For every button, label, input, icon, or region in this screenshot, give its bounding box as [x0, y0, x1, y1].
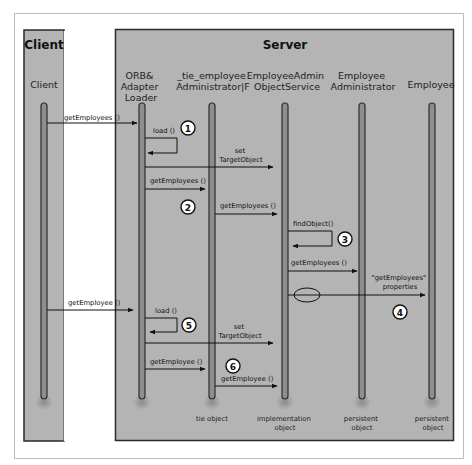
step-marker-1: 1 [181, 121, 195, 135]
message-label: getEmployee () [150, 358, 203, 366]
sequence-diagram: Client Server Client ORB& Adapter Loader… [0, 0, 472, 465]
message-label: getEmployees () [64, 114, 120, 122]
message-label: getEmployees () [150, 177, 206, 185]
lifeline-label-service: EmployeeAdmin ObjectService [247, 70, 327, 92]
message-label: load () [155, 307, 177, 315]
svg-text:3: 3 [342, 235, 348, 245]
svg-text:1: 1 [185, 124, 191, 134]
message-label: findObject() [293, 220, 334, 228]
lifeline-label-orb: ORB& Adapter Loader [121, 70, 162, 103]
footer-tie: tie object [196, 415, 228, 423]
message-label: getEmployee () [68, 299, 121, 307]
svg-text:6: 6 [230, 362, 236, 372]
message-label: load () [153, 127, 175, 135]
step-marker-6: 6 [226, 359, 240, 373]
message-label: getEmployees () [220, 202, 276, 210]
step-marker-3: 3 [338, 232, 352, 246]
lifeline-tie [209, 103, 215, 399]
server-panel-title: Server [263, 38, 308, 52]
svg-text:2: 2 [185, 203, 191, 213]
lifeline-label-client: Client [30, 79, 58, 90]
lifeline-admin [359, 103, 365, 399]
svg-text:5: 5 [186, 321, 192, 331]
lifeline-label-admin: Employee Administrator [331, 70, 396, 92]
step-marker-4: 4 [393, 305, 407, 319]
lifeline-service [282, 103, 288, 399]
step-marker-2: 2 [181, 200, 195, 214]
lifeline-client [41, 103, 47, 399]
lifeline-label-tie: _tie_employee Administrator|F [176, 70, 250, 92]
lifeline-employee [429, 103, 435, 399]
client-panel-title: Client [24, 38, 64, 52]
message-label: getEmployees () [291, 259, 347, 267]
step-marker-5: 5 [182, 318, 196, 332]
lifeline-orb [139, 103, 145, 399]
lifeline-label-employee: Employee [407, 79, 454, 90]
message-label: getEmployee () [221, 375, 274, 383]
svg-text:4: 4 [397, 308, 403, 318]
